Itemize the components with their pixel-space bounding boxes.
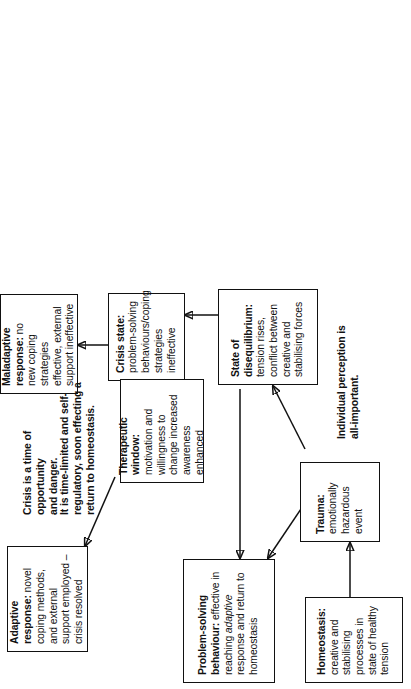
node-trauma-body: emotionally hazardous event [327, 483, 363, 534]
node-homeostasis-heading: Homeostasis: [316, 608, 327, 675]
note-individual-perception: Individual perception is all-important. [335, 299, 361, 439]
node-homeostasis-body: creative and stabilising processes in st… [329, 606, 391, 675]
node-disequilibrium-body: tension rises, conflict between creative… [255, 302, 304, 377]
edge-trauma-to-disequilibrium [273, 386, 305, 449]
note-time-limited: It is time-limited and self- regulatory,… [58, 375, 97, 515]
note-perception-line-1: Individual perception is [335, 299, 348, 439]
note-crisis-opportunity-danger: Crisis is a time of opportunity and dang… [21, 383, 60, 515]
node-crisis-state-heading: Crisis state: [115, 315, 126, 373]
node-crisis-state-body: problem-solving behaviours/coping strate… [127, 290, 176, 373]
node-homeostasis[interactable]: Homeostasis: creative and stabilising pr… [305, 597, 403, 683]
node-adaptive-response[interactable]: Adaptive response: novel coping methods,… [7, 546, 88, 652]
node-problem-solving-behaviour[interactable]: Problem-solving behaviour: effective in … [183, 559, 275, 683]
note-time-limited-line-3: return to homeostasis. [84, 375, 97, 515]
note-perception-line-2: all-important. [348, 299, 361, 439]
node-therapeutic-window[interactable]: Therapeutic window: motivation and willi… [120, 379, 204, 483]
node-therapeutic-window-heading: Therapeutic window: [118, 417, 142, 475]
node-trauma[interactable]: Trauma: emotionally hazardous event [300, 462, 380, 542]
note-time-limited-line-1: It is time-limited and self- [58, 375, 71, 515]
node-state-of-disequilibrium[interactable]: State of disequilibrium: tension rises, … [218, 289, 318, 385]
node-problem-solving-body-post: response and return to homeostasis [235, 573, 259, 675]
node-problem-solving-body-italic: adaptive [223, 595, 234, 634]
node-trauma-heading: Trauma: [315, 494, 326, 534]
node-therapeutic-window-body: motivation and willingness to change inc… [143, 395, 205, 475]
note-crisis-line-1: Crisis is a time of opportunity [21, 383, 47, 515]
node-crisis-state[interactable]: Crisis state: problem-solving behaviours… [108, 293, 185, 381]
diagram-canvas: Homeostasis: creative and stabilising pr… [0, 0, 411, 689]
note-time-limited-line-2: regulatory, soon effecting a [71, 375, 84, 515]
node-adaptive-heading: Adaptive response: [9, 595, 33, 644]
node-disequilibrium-heading: State of disequilibrium: [230, 304, 254, 377]
